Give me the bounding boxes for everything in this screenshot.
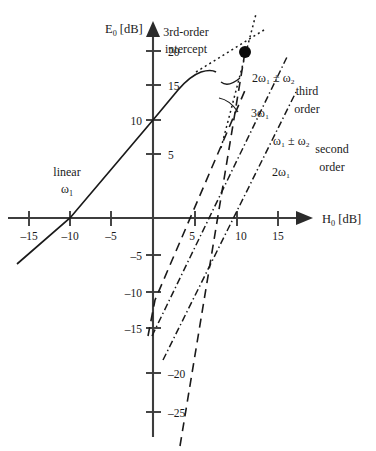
second-order-line2: order: [319, 160, 344, 174]
intercept-label-line1: 3rd-order: [163, 25, 208, 39]
second-order-line1: second: [315, 142, 348, 156]
leader-lines-group: [219, 78, 240, 112]
curve-w1-pm-w2: [152, 57, 287, 336]
label-3w1: 3ω₁: [251, 106, 269, 120]
axis-titles-group: E0 [dB] H0 [dB]: [105, 22, 361, 228]
third-order-line2: order: [294, 102, 319, 116]
third-order-intercept-marker: [239, 46, 251, 58]
intercept-label-line2: intercept: [165, 42, 208, 56]
y-axis-arrowhead: [146, 21, 160, 37]
y-tick-label-5: 5: [168, 149, 174, 161]
x-tick-label-10: 10: [235, 230, 247, 242]
linear-omega-glyph: ω: [61, 182, 69, 196]
y-tick-label-15: 15: [168, 80, 180, 92]
x-axis-title: H0 [dB]: [322, 212, 361, 228]
label-2w1: 2ω₁: [272, 165, 290, 179]
tick-labels-group: –15 –10 –5 5 10 15 20 15 10 5 –5 –10 –15…: [19, 46, 284, 419]
label-w1-pm-w2: ω₁ ± ω₂: [273, 134, 310, 148]
curve-dotted-third-order-extension: [221, 14, 256, 148]
x-tick-label-neg5: –5: [104, 230, 117, 242]
x-tick-label-neg10: –10: [60, 230, 79, 242]
linear-label-line1: linear: [53, 165, 80, 179]
y-tick-label-neg25: –25: [167, 407, 186, 419]
y-axis-title-unit: [dB]: [117, 22, 143, 36]
chart-container: –15 –10 –5 5 10 15 20 15 10 5 –5 –10 –15…: [0, 0, 376, 451]
y-tick-label-10: 10: [131, 115, 143, 127]
linear-omega-sub: 1: [69, 189, 73, 198]
x-tick-label-15: 15: [272, 230, 284, 242]
curve-3w1: [148, 88, 246, 336]
curve-2w1: [163, 92, 296, 360]
y-axis-title: E0 [dB]: [105, 22, 143, 38]
x-axis-title-unit: [dB]: [335, 212, 361, 226]
x-tick-label-neg15: –15: [19, 230, 38, 242]
third-order-line1: third: [296, 84, 319, 98]
x-axis-arrowhead: [296, 211, 313, 225]
y-tick-label-neg10: –10: [124, 287, 143, 299]
leader-3w1: [219, 98, 238, 112]
y-tick-label-neg5: –5: [130, 250, 143, 262]
chart-svg: –15 –10 –5 5 10 15 20 15 10 5 –5 –10 –15…: [0, 0, 376, 451]
x-axis-title-main: H: [322, 212, 331, 226]
y-tick-label-neg20: –20: [167, 368, 186, 380]
linear-label-line2: ω1: [61, 182, 73, 198]
annotations-group: 3rd-order intercept linear ω1 2ω₁ ± ω₂ t…: [53, 25, 348, 198]
label-2w1-pm-w2: 2ω₁ ± ω₂: [252, 71, 295, 85]
y-tick-label-neg15: –15: [124, 323, 143, 335]
leader-2w1-pm-w2: [221, 78, 240, 84]
x-tick-label-5: 5: [189, 230, 195, 242]
